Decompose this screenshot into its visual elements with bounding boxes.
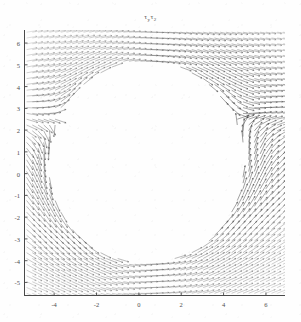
field-arrow — [254, 166, 258, 177]
field-arrow — [249, 240, 258, 247]
field-arrow — [272, 116, 283, 119]
field-arrow — [101, 67, 111, 72]
field-arrow — [32, 125, 42, 131]
field-arrow — [44, 264, 54, 270]
field-arrow — [27, 183, 33, 193]
field-arrow — [260, 283, 270, 287]
field-arrow — [84, 288, 95, 292]
field-arrow — [249, 160, 252, 172]
y-tick-label: -5 — [15, 279, 20, 286]
field-arrow — [226, 289, 236, 293]
field-arrow — [243, 55, 254, 58]
field-arrow — [249, 115, 260, 119]
field-arrow — [260, 173, 266, 183]
field-arrow — [118, 58, 129, 61]
field-arrow — [49, 270, 59, 276]
field-arrow — [277, 278, 286, 282]
field-arrow — [32, 288, 42, 292]
field-arrow — [254, 149, 258, 160]
y-tick-label: 1 — [17, 148, 20, 155]
field-arrow — [38, 270, 48, 275]
field-arrow — [237, 113, 248, 117]
field-arrow — [198, 55, 209, 59]
field-arrow — [106, 270, 117, 274]
field-arrow — [254, 240, 263, 247]
field-arrow — [272, 162, 279, 171]
field-arrow — [180, 67, 191, 71]
field-arrow — [198, 73, 208, 79]
field-arrow — [72, 276, 83, 281]
field-arrow — [163, 274, 175, 276]
field-arrow — [203, 73, 213, 79]
field-arrow — [254, 67, 265, 70]
field-arrow — [89, 72, 99, 79]
field-arrow — [232, 283, 242, 287]
field-arrow — [198, 247, 208, 253]
field-arrow — [254, 55, 265, 58]
field-arrow — [192, 247, 202, 252]
field-arrow — [101, 52, 112, 56]
field-arrow — [249, 79, 260, 83]
field-arrow — [237, 271, 247, 276]
field-arrow — [32, 282, 42, 287]
field-arrow — [89, 247, 99, 254]
field-arrow — [27, 288, 37, 292]
field-arrow — [243, 246, 253, 253]
field-arrow — [226, 61, 237, 65]
field-arrow — [283, 90, 294, 91]
field-arrow — [254, 79, 265, 82]
field-arrow — [38, 195, 44, 205]
field-arrow — [32, 264, 42, 270]
field-arrow — [215, 271, 226, 276]
field-arrow — [226, 67, 237, 71]
field-arrow — [61, 282, 71, 287]
field-arrow — [226, 277, 237, 282]
field-arrow — [260, 149, 265, 160]
field-arrow — [203, 259, 213, 264]
field-arrow — [101, 293, 112, 296]
field-arrow — [249, 84, 260, 88]
field-arrow — [27, 259, 36, 265]
field-arrow — [27, 137, 36, 145]
field-arrow — [72, 57, 83, 61]
field-arrow — [209, 240, 218, 247]
field-arrow — [192, 61, 203, 65]
field-arrow — [89, 259, 99, 265]
field-arrow — [260, 265, 270, 270]
field-arrow — [89, 41, 100, 44]
field-arrow — [283, 272, 292, 276]
y-tick-label: 4 — [17, 83, 20, 90]
field-arrow — [106, 46, 117, 49]
field-arrow — [266, 116, 277, 119]
field-arrow — [272, 277, 282, 281]
field-arrow — [260, 155, 265, 166]
field-arrow — [95, 270, 106, 275]
field-arrow — [226, 233, 235, 241]
field-arrow — [260, 167, 265, 178]
field-arrow — [101, 264, 112, 269]
field-arrow — [220, 289, 231, 293]
field-arrow — [61, 276, 71, 281]
field-arrow — [249, 246, 259, 253]
field-arrow — [283, 95, 294, 96]
field-arrow — [237, 67, 248, 71]
field-arrow — [27, 264, 37, 269]
field-arrow — [72, 270, 82, 275]
field-arrow — [32, 270, 42, 275]
y-tick-label: 6 — [17, 40, 20, 47]
field-arrow — [72, 52, 83, 56]
field-arrow — [266, 167, 272, 177]
field-arrow — [32, 177, 37, 188]
field-arrow — [38, 282, 48, 287]
field-arrow — [232, 50, 243, 53]
field-arrow — [84, 264, 94, 269]
field-arrow — [89, 51, 100, 55]
field-arrow — [101, 282, 112, 286]
field-arrow — [209, 50, 220, 54]
field-arrow — [243, 73, 254, 77]
field-arrow — [101, 46, 112, 49]
field-arrow — [203, 265, 214, 270]
field-arrow — [220, 271, 231, 276]
field-arrow — [232, 258, 242, 264]
field-arrow — [232, 61, 243, 65]
